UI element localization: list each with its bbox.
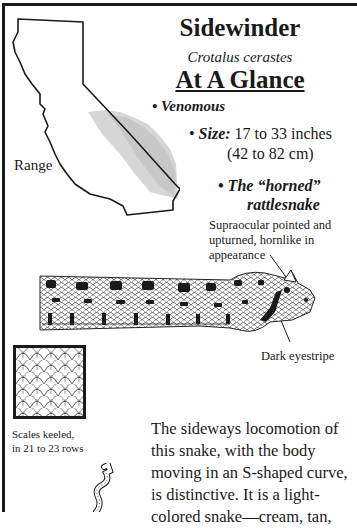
sidewinder-head-illustration-icon xyxy=(30,250,330,350)
fact-size-label: Size: xyxy=(199,125,231,142)
fact-size: • Size: 17 to 33 inches xyxy=(189,124,332,144)
fact-horned-line1: • The “horned” xyxy=(218,176,321,195)
fact-horned-line2: rattlesnake xyxy=(247,195,320,214)
eyestripe-annotation: Dark eyestripe xyxy=(261,349,334,364)
scales-caption: Scales keeled, in 21 to 23 rows xyxy=(12,427,84,455)
species-title: Sidewinder xyxy=(140,14,340,42)
page-border-top xyxy=(2,3,357,6)
fact-size-cm: (42 to 82 cm) xyxy=(227,144,314,164)
keeled-scales-detail-icon xyxy=(13,345,86,419)
page-border-left xyxy=(2,3,5,512)
scales-caption-line1: Scales keeled, xyxy=(12,427,84,441)
california-range-map-icon xyxy=(10,14,180,219)
s-curve-snake-icon xyxy=(84,463,114,512)
locomotion-description: The sideways locomotion of this snake, w… xyxy=(151,418,357,528)
fact-venomous: • Venomous xyxy=(152,97,225,115)
fact-size-bullet: • xyxy=(189,125,199,142)
fact-size-inches: 17 to 33 inches xyxy=(231,125,332,142)
range-label: Range xyxy=(14,156,52,174)
scales-caption-line2: in 21 to 23 rows xyxy=(12,441,84,455)
scientific-name: Crotalus cerastes xyxy=(140,48,340,66)
section-heading: At A Glance xyxy=(140,66,340,94)
